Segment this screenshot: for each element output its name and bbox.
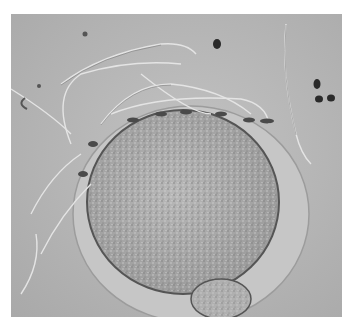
microscopy-image [11,14,342,317]
